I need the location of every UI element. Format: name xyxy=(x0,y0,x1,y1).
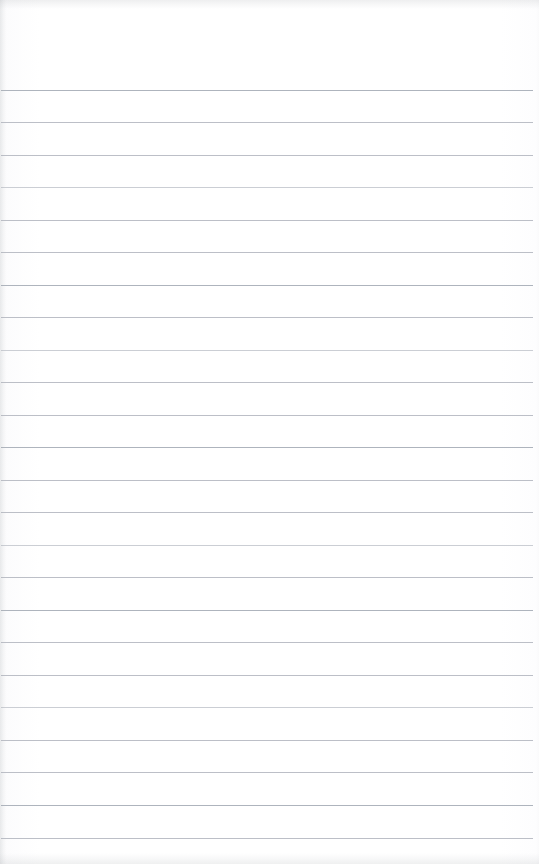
ruled-line xyxy=(1,838,533,839)
ruled-line xyxy=(1,122,533,123)
ruled-line xyxy=(1,382,533,383)
ruled-line xyxy=(1,480,533,481)
ruled-line xyxy=(1,675,533,676)
ruled-line xyxy=(1,350,533,351)
ruled-line xyxy=(1,252,533,253)
ruled-line xyxy=(1,317,533,318)
ruled-line xyxy=(1,285,533,286)
ruled-lines-layer xyxy=(0,0,539,864)
ruled-line xyxy=(1,187,533,188)
ruled-line xyxy=(1,642,533,643)
ruled-line xyxy=(1,577,533,578)
ruled-line xyxy=(1,610,533,611)
scanned-page xyxy=(0,0,539,864)
ruled-line xyxy=(1,512,533,513)
ruled-line xyxy=(1,90,533,91)
ruled-line xyxy=(1,740,533,741)
ruled-line xyxy=(1,155,533,156)
ruled-line xyxy=(1,545,533,546)
ruled-line xyxy=(1,805,533,806)
ruled-line xyxy=(1,772,533,773)
ruled-line xyxy=(1,707,533,708)
ruled-line xyxy=(1,447,533,448)
ruled-line xyxy=(1,220,533,221)
ruled-line xyxy=(1,415,533,416)
